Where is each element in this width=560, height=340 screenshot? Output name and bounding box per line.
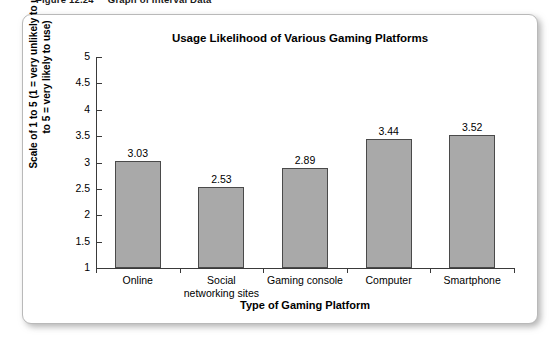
y-axis-tick: 4.5 xyxy=(97,83,102,84)
x-axis-tick xyxy=(514,268,515,273)
plot-area: 11.522.533.544.55 3.032.532.893.443.52 xyxy=(96,57,514,268)
y-axis-tick-label: 2.5 xyxy=(75,182,90,194)
figure-caption-text: Graph of Interval Data xyxy=(108,0,212,5)
bar: 2.53 xyxy=(198,187,244,268)
bar-value-label: 3.03 xyxy=(108,147,168,159)
y-axis-tick-label: 4.5 xyxy=(75,76,90,88)
y-axis-title-line1: Scale of 1 to 5 (1 = very unlikely to us… xyxy=(28,0,41,182)
y-axis-tick: 5 xyxy=(97,57,102,58)
bar-value-label: 2.53 xyxy=(191,173,251,185)
x-axis-tick xyxy=(263,268,264,273)
bar: 3.52 xyxy=(449,135,495,268)
category-label-line2: networking sites xyxy=(166,287,276,300)
x-axis-tick xyxy=(347,268,348,273)
x-axis-category-label: Smartphone xyxy=(417,274,527,287)
y-axis-tick-label: 3 xyxy=(84,156,90,168)
x-axis-tick xyxy=(430,268,431,273)
bar: 3.03 xyxy=(115,161,161,268)
y-axis-tick: 3.5 xyxy=(97,136,102,137)
y-axis-tick-label: 2 xyxy=(84,208,90,220)
y-axis-tick-label: 4 xyxy=(84,103,90,115)
bar: 3.44 xyxy=(366,139,412,268)
category-label-line1: Smartphone xyxy=(417,274,527,287)
y-axis-tick-label: 5 xyxy=(84,50,90,62)
bar-value-label: 3.44 xyxy=(359,125,419,137)
bar-value-label: 3.52 xyxy=(442,121,502,133)
x-axis-tick xyxy=(96,268,97,273)
x-axis-title: Type of Gaming Platform xyxy=(96,299,514,311)
x-axis-tick xyxy=(180,268,181,273)
y-axis-tick: 3 xyxy=(97,163,102,164)
y-axis-title: Scale of 1 to 5 (1 = very unlikely to us… xyxy=(28,0,58,182)
y-axis-tick: 1.5 xyxy=(97,242,102,243)
y-axis-tick: 1 xyxy=(97,268,102,269)
bar-value-label: 2.89 xyxy=(275,154,335,166)
chart-title: Usage Likelihood of Various Gaming Platf… xyxy=(90,32,510,44)
y-axis-tick: 4 xyxy=(97,110,102,111)
y-axis-title-line2: to 5 = very likely to use) xyxy=(41,0,54,182)
figure-caption: Figure 12.24Graph of Interval Data xyxy=(36,0,212,6)
y-axis-tick: 2 xyxy=(97,215,102,216)
y-axis-tick-label: 1 xyxy=(84,261,90,273)
bar: 2.89 xyxy=(282,168,328,268)
y-axis-tick: 2.5 xyxy=(97,189,102,190)
x-axis-line xyxy=(96,268,514,269)
y-axis-tick-label: 3.5 xyxy=(75,129,90,141)
y-axis-tick-label: 1.5 xyxy=(75,235,90,247)
